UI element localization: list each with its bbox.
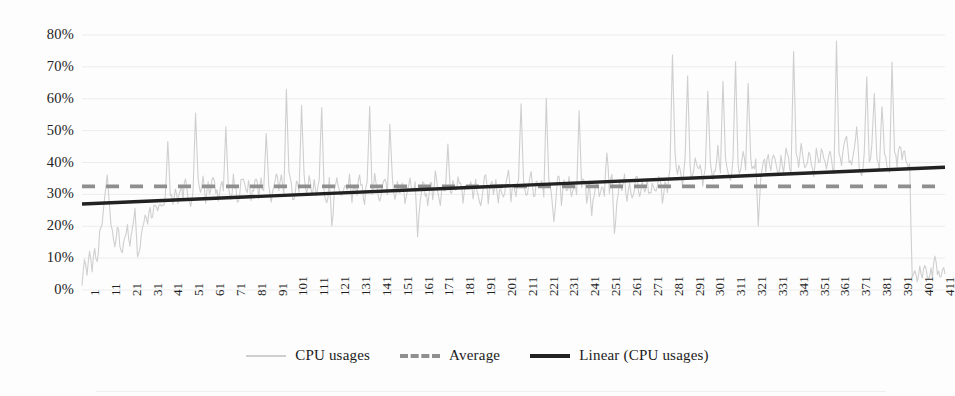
x-axis-tick-label: 11	[108, 283, 124, 296]
y-axis-tick-label: 50%	[26, 122, 74, 139]
x-axis-tick-label: 171	[441, 276, 457, 296]
y-axis-tick-label: 80%	[26, 26, 74, 43]
legend-item-cpu-usages[interactable]: CPU usages	[246, 347, 370, 364]
x-axis-tick-label: 361	[837, 276, 853, 296]
chart-plot-area	[0, 0, 955, 396]
x-axis-tick-label: 411	[942, 277, 955, 296]
x-axis-tick-label: 191	[483, 276, 499, 296]
x-axis-tick-label: 231	[566, 276, 582, 296]
x-axis-tick-label: 211	[525, 277, 541, 296]
legend-item-linear-trend[interactable]: Linear (CPU usages)	[530, 347, 709, 364]
x-axis-tick-label: 271	[650, 276, 666, 296]
x-axis-tick-label: 131	[358, 276, 374, 296]
x-axis-tick-label: 251	[608, 276, 624, 296]
x-axis-tick-label: 121	[337, 276, 353, 296]
x-axis-tick-label: 261	[629, 276, 645, 296]
x-axis-tick-label: 101	[295, 276, 311, 296]
x-axis-tick-label: 81	[254, 283, 270, 296]
x-axis-tick-label: 161	[421, 276, 437, 296]
y-axis-tick-label: 20%	[26, 217, 74, 234]
x-axis-tick-label: 61	[212, 283, 228, 296]
x-axis-tick-label: 281	[671, 276, 687, 296]
x-axis-tick-label: 91	[275, 283, 291, 296]
y-axis-tick-label: 70%	[26, 58, 74, 75]
y-axis-tick-label: 10%	[26, 249, 74, 266]
x-axis-tick-label: 311	[733, 277, 749, 296]
x-axis-tick-label: 381	[879, 276, 895, 296]
y-axis-tick-label: 0%	[26, 281, 74, 298]
x-axis-tick-label: 371	[858, 276, 874, 296]
x-axis-tick-label: 321	[754, 276, 770, 296]
x-axis-tick-label: 181	[462, 276, 478, 296]
x-axis-tick-label: 31	[150, 283, 166, 296]
chart-legend: CPU usages Average Linear (CPU usages)	[0, 347, 955, 364]
x-axis-tick-label: 351	[817, 276, 833, 296]
y-axis-tick-label: 60%	[26, 90, 74, 107]
x-axis-tick-label: 221	[546, 276, 562, 296]
trend-solid-swatch-icon	[530, 351, 570, 361]
x-axis-tick-label: 51	[191, 283, 207, 296]
x-axis-tick-label: 21	[129, 283, 145, 296]
x-axis-tick-label: 341	[796, 276, 812, 296]
x-axis-tick-label: 111	[316, 277, 332, 296]
y-axis-tick-label: 40%	[26, 154, 74, 171]
x-axis-tick-label: 401	[921, 276, 937, 296]
x-axis-tick-label: 41	[170, 283, 186, 296]
x-axis-tick-label: 141	[379, 276, 395, 296]
x-axis-tick-label: 151	[400, 276, 416, 296]
x-axis-tick-label: 391	[900, 276, 916, 296]
legend-label-cpu-usages: CPU usages	[295, 347, 370, 364]
bottom-divider	[96, 391, 886, 392]
series-cpu-usages	[82, 41, 945, 286]
y-axis-tick-label: 30%	[26, 185, 74, 202]
x-axis-tick-label: 291	[692, 276, 708, 296]
average-dashed-swatch-icon	[400, 351, 440, 361]
legend-label-average: Average	[449, 347, 500, 364]
x-axis-tick-label: 301	[712, 276, 728, 296]
legend-label-linear-trend: Linear (CPU usages)	[579, 347, 709, 364]
x-axis-tick-label: 201	[504, 276, 520, 296]
legend-item-average[interactable]: Average	[400, 347, 500, 364]
x-axis-tick-label: 71	[233, 283, 249, 296]
cpu-usage-chart: 80%70%60%50%40%30%20%10%0% 1112131415161…	[0, 0, 955, 396]
series-line-swatch-icon	[246, 351, 286, 361]
x-axis-tick-label: 331	[775, 276, 791, 296]
x-axis-tick-label: 241	[587, 276, 603, 296]
x-axis-tick-label: 1	[87, 289, 103, 296]
